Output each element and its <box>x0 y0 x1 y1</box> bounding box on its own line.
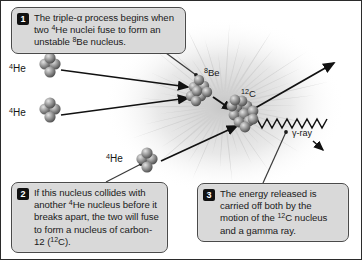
nucleus-carbon-12 <box>227 95 259 133</box>
arrow-he2-to-be <box>61 98 188 115</box>
gamma-ray-wave <box>252 119 327 128</box>
arrow-he3-to-c12 <box>161 126 237 161</box>
callout-step-3: 3 The energy released is carried off bot… <box>197 183 349 242</box>
label-helium-4-upper: 4He <box>9 63 26 74</box>
callout-3-badge: 3 <box>203 189 215 201</box>
leader-dot-1 <box>194 73 198 77</box>
leader-callout1 <box>166 53 196 75</box>
label-beryllium-8: 8Be <box>204 67 220 78</box>
arrow-he1-to-be <box>61 70 188 87</box>
figure-canvas: 4He 4He 4He 8Be 12C γ-ray 1 The triple-α… <box>0 0 362 260</box>
leader-dot-3 <box>284 130 288 134</box>
arrow-c12-recoil <box>250 63 334 111</box>
leader-callout3 <box>263 132 286 183</box>
callout-3-text: The energy released is carried off both … <box>220 188 342 237</box>
callout-1-badge: 1 <box>17 13 29 25</box>
label-helium-4-third: 4He <box>106 153 123 164</box>
nucleus-helium-4-upper <box>39 52 60 77</box>
leader-callout2 <box>106 164 141 182</box>
callout-2-badge: 2 <box>17 188 29 200</box>
label-carbon-12: 12C <box>241 88 256 99</box>
nucleus-helium-4-third <box>136 147 157 172</box>
leader-dot-2 <box>139 162 143 166</box>
callout-1-text: The triple-α process begins when two 4He… <box>34 12 179 49</box>
arrow-be-to-c12 <box>213 97 232 110</box>
gamma-ray-arrow <box>313 141 323 150</box>
nucleus-beryllium-8 <box>186 75 212 106</box>
callout-step-1: 1 The triple-α process begins when two 4… <box>11 7 186 54</box>
nucleus-helium-4-lower <box>39 97 60 122</box>
label-gamma-ray: γ-ray <box>292 128 312 138</box>
callout-2-text: If this nucleus collides with another 4H… <box>34 187 161 248</box>
label-helium-4-lower: 4He <box>9 107 26 118</box>
callout-step-2: 2 If this nucleus collides with another … <box>11 182 168 253</box>
